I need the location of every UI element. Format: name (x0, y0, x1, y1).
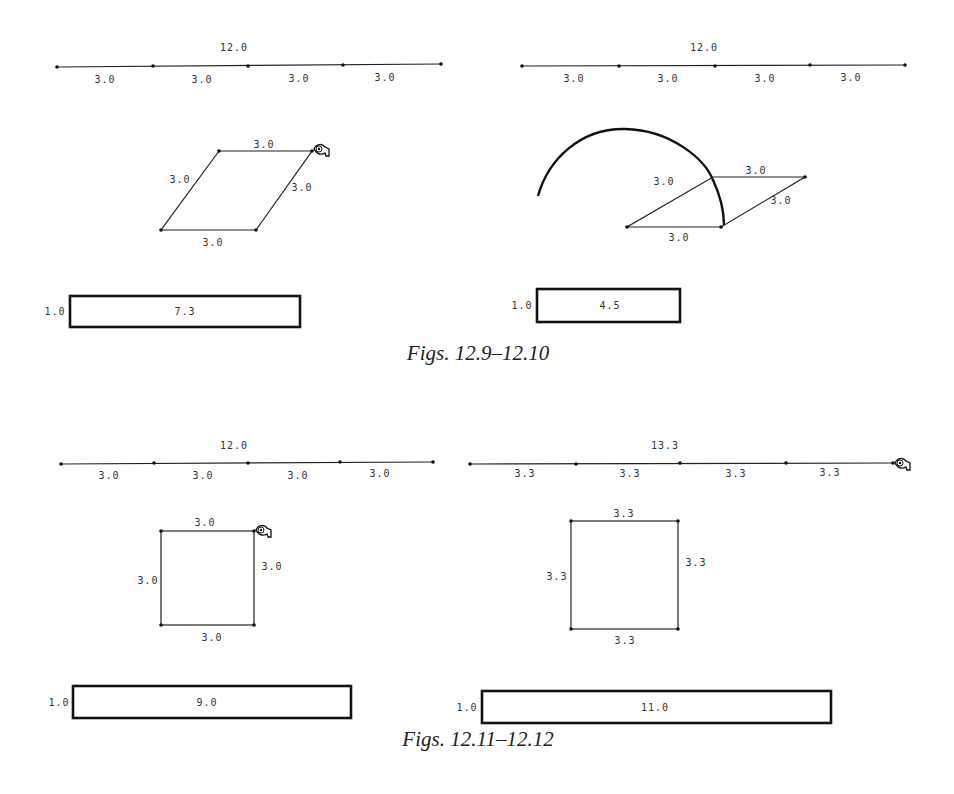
side-label-bottom: 3.0 (668, 232, 689, 243)
segment-label: 3.0 (657, 73, 678, 84)
segmented-line: 12.0 3.0 3.0 3.0 3.0 (59, 440, 435, 481)
figure-12-11: 12.0 3.0 3.0 3.0 3.0 3.0 3.0 3.0 3.0 1.0… (48, 440, 434, 718)
side-label-left: 3.0 (169, 174, 190, 185)
segmented-line: 12.0 3.0 3.0 3.0 3.0 (55, 42, 443, 85)
side-label-right: 3.3 (685, 557, 706, 568)
segment-label: 3.0 (287, 470, 308, 481)
area-bar: 1.0 7.3 (44, 296, 300, 327)
line-total-label: 12.0 (220, 440, 248, 451)
bar-height-label: 1.0 (511, 300, 532, 311)
caption-bottom: Figs. 12.11–12.12 (401, 727, 554, 751)
bar-area-label: 11.0 (641, 702, 669, 713)
segment-label: 3.3 (725, 468, 746, 479)
line-total-label: 12.0 (690, 42, 718, 53)
segment-label: 3.3 (514, 468, 535, 479)
segmented-line: 12.0 3.0 3.0 3.0 3.0 (520, 42, 907, 84)
side-label-left: 3.0 (653, 176, 674, 187)
segment-label: 3.0 (840, 72, 861, 83)
side-label-bottom: 3.0 (201, 632, 222, 643)
side-label-top: 3.0 (253, 139, 274, 150)
rhombus-with-arc-shape: 3.0 3.0 3.0 3.0 (538, 129, 807, 243)
side-label-bottom: 3.3 (614, 635, 635, 646)
square-shape: 3.3 3.3 3.3 3.3 (546, 508, 706, 646)
segment-label: 3.0 (94, 74, 115, 85)
segment-label: 3.0 (288, 73, 309, 84)
caption-top: Figs. 12.9–12.10 (406, 341, 550, 365)
segment-label: 3.3 (819, 467, 840, 478)
bar-area-label: 9.0 (196, 697, 217, 708)
hand-cursor-icon[interactable] (256, 526, 271, 537)
side-label-top: 3.0 (194, 517, 215, 528)
line-total-label: 12.0 (220, 42, 248, 53)
side-label-right: 3.0 (770, 195, 791, 206)
figure-12-9: 12.0 3.0 3.0 3.0 3.0 3.0 3.0 3.0 3.0 1.0… (44, 42, 442, 327)
segment-label: 3.0 (191, 74, 212, 85)
segment-label: 3.3 (619, 468, 640, 479)
side-label-top: 3.0 (745, 165, 766, 176)
bar-height-label: 1.0 (48, 697, 69, 708)
segment-label: 3.0 (98, 470, 119, 481)
side-label-left: 3.0 (137, 575, 158, 586)
segmented-line: 13.3 3.3 3.3 3.3 3.3 (468, 440, 910, 479)
area-bar: 1.0 4.5 (511, 289, 680, 322)
area-bar: 1.0 9.0 (48, 686, 351, 718)
hand-cursor-icon[interactable] (895, 459, 910, 470)
segment-label: 3.0 (374, 72, 395, 83)
bar-height-label: 1.0 (44, 306, 65, 317)
side-label-top: 3.3 (613, 508, 634, 519)
segment-label: 3.0 (192, 470, 213, 481)
bar-area-label: 7.3 (174, 306, 195, 317)
hand-cursor-icon[interactable] (314, 145, 329, 156)
area-bar: 1.0 11.0 (456, 691, 831, 723)
side-label-left: 3.3 (546, 571, 567, 582)
segment-label: 3.0 (369, 468, 390, 479)
side-label-bottom: 3.0 (202, 237, 223, 248)
segment-label: 3.0 (563, 73, 584, 84)
rhombus-shape: 3.0 3.0 3.0 3.0 (159, 139, 329, 248)
bar-height-label: 1.0 (456, 702, 477, 713)
figure-12-12: 13.3 3.3 3.3 3.3 3.3 3.3 3.3 3.3 3.3 1.0… (456, 440, 910, 723)
side-label-right: 3.0 (261, 561, 282, 572)
square-shape: 3.0 3.0 3.0 3.0 (137, 517, 282, 643)
side-label-right: 3.0 (291, 182, 312, 193)
figure-12-10: 12.0 3.0 3.0 3.0 3.0 3.0 3.0 3.0 3.0 1.0… (511, 42, 906, 322)
bar-area-label: 4.5 (599, 300, 620, 311)
segment-label: 3.0 (754, 73, 775, 84)
line-total-label: 13.3 (651, 440, 679, 451)
